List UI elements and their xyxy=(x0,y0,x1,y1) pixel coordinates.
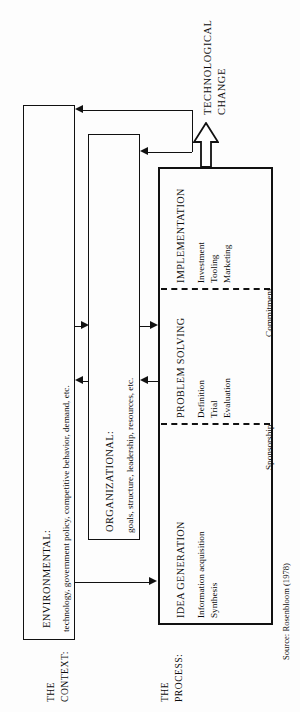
gate-commitment-divider xyxy=(161,288,270,290)
arrow-org-to-env-line xyxy=(82,381,89,382)
technological-change-block-arrow xyxy=(193,122,219,168)
block-arrow-icon xyxy=(193,122,219,168)
figure-canvas: ENVIRONMENTAL: technology, government po… xyxy=(0,0,300,712)
environmental-detail: technology, government policy, competiti… xyxy=(62,385,71,632)
technological-change-label-line2: CHANGE xyxy=(217,68,227,115)
organizational-detail: goals, structure, leadership, resources,… xyxy=(126,378,135,533)
arrow-process-to-org-head xyxy=(140,376,148,384)
arrow-org-to-process-head xyxy=(150,321,158,329)
environmental-title: ENVIRONMENTAL: xyxy=(42,530,52,628)
feedback-to-environmental-line xyxy=(83,110,192,111)
side-label-context-line1: THE xyxy=(46,682,56,702)
stage-item-implementation-0: Investment xyxy=(197,242,206,283)
source-note: Source: Rosenbloom (1978) xyxy=(282,563,291,660)
gate-commitment-label: Commitment xyxy=(265,289,274,338)
feedback-to-organizational-head xyxy=(140,147,148,155)
stage-title-idea-generation: IDEA GENERATION xyxy=(176,521,186,618)
arrow-env-to-org-head xyxy=(81,321,89,329)
stage-title-problem-solving: PROBLEM SOLVING xyxy=(176,318,186,418)
stage-item-problem-solving-2: Evaluation xyxy=(223,378,232,418)
stage-title-implementation: IMPLEMENTATION xyxy=(176,188,186,283)
arrow-org-to-env-head xyxy=(75,376,83,384)
arrow-env-to-process-line xyxy=(75,582,150,583)
stage-item-idea-generation-1: Synthesis xyxy=(210,583,219,618)
stage-item-problem-solving-1: Trial xyxy=(210,400,219,418)
gate-sponsorship-divider xyxy=(161,423,270,425)
technological-change-label-line1: TECHNOLOGICAL xyxy=(203,19,213,115)
stage-item-problem-solving-0: Definition xyxy=(197,380,206,418)
stage-item-idea-generation-0: Information acquisition xyxy=(197,532,206,619)
side-label-context-line2: CONTEXT: xyxy=(60,651,70,702)
stage-item-implementation-2: Marketing xyxy=(223,245,232,283)
side-label-process-line1: THE xyxy=(160,682,170,702)
feedback-to-organizational-line xyxy=(148,152,192,153)
arrow-env-to-process-head xyxy=(149,577,157,585)
feedback-to-environmental-head xyxy=(75,105,83,113)
stage-item-implementation-1: Tooling xyxy=(210,255,219,283)
organizational-title: ORGANIZATIONAL: xyxy=(105,431,115,532)
arrow-process-to-org-line xyxy=(147,381,158,382)
side-label-process-line2: PROCESS: xyxy=(174,654,184,702)
gate-sponsorship-label: Sponsorship xyxy=(265,425,274,470)
